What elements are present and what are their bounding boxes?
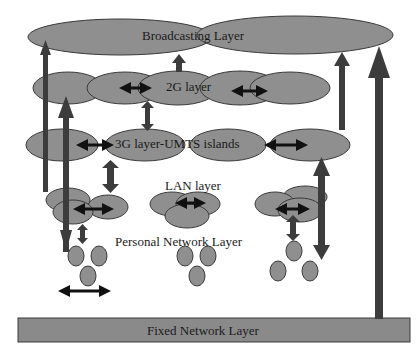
personal-nodes-right — [270, 241, 318, 281]
fixed-network-layer-label: Fixed Network Layer — [147, 323, 259, 339]
3g-layer-label: 3G layer-UMTS islands — [115, 136, 240, 152]
personal-nodes-middle — [177, 246, 216, 286]
lan-layer-label: LAN layer — [165, 178, 221, 194]
network-layers-diagram — [0, 0, 418, 352]
2g-layer-label: 2G layer — [166, 79, 211, 95]
personal-network-layer-label: Personal Network Layer — [115, 234, 242, 250]
lan-cluster-left — [46, 188, 128, 224]
lan-cluster-middle — [150, 192, 220, 228]
lan-cluster-right — [255, 186, 327, 222]
personal-nodes-left — [68, 246, 107, 286]
broadcasting-layer-label: Broadcasting Layer — [142, 28, 244, 44]
